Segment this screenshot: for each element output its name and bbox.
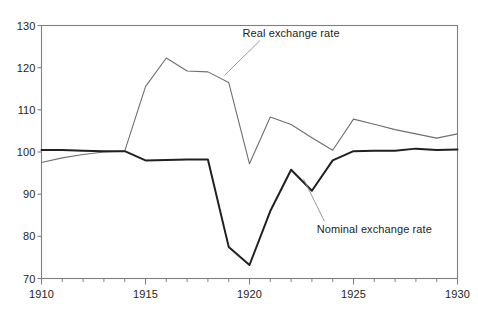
series-line-real-exchange-rate	[42, 58, 458, 164]
series-line-nominal-exchange-rate	[42, 149, 458, 265]
real-exchange-rate-label: Real exchange rate	[242, 27, 339, 39]
x-axis-tick-label: 1920	[237, 288, 262, 300]
x-axis-tick-label: 1930	[445, 288, 470, 300]
exchange-rate-chart: 70809010011012013019101915192019251930Re…	[0, 0, 478, 312]
x-axis-tick-label: 1910	[29, 288, 54, 300]
y-axis-tick-label: 130	[2, 20, 36, 32]
y-axis-tick-label: 110	[2, 104, 36, 116]
y-axis-tick-label: 120	[2, 62, 36, 74]
y-axis-tick-label: 70	[2, 273, 36, 285]
x-axis-tick-label: 1925	[341, 288, 366, 300]
y-axis-tick-label: 80	[2, 230, 36, 242]
nominal-exchange-rate-label: Nominal exchange rate	[317, 223, 432, 235]
real-exchange-rate-label-leader-line	[225, 41, 260, 76]
y-axis-tick-label: 90	[2, 188, 36, 200]
y-axis-tick-label: 100	[2, 146, 36, 158]
nominal-exchange-rate-label-leader-line	[304, 179, 325, 221]
x-axis-tick-label: 1915	[133, 288, 158, 300]
plot-area	[0, 0, 478, 312]
